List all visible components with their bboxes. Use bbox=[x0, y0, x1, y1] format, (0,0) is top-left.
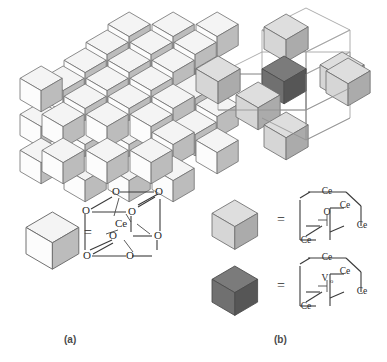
atom-V-center: V bbox=[322, 273, 329, 283]
panel-label-a: (a) bbox=[64, 334, 76, 345]
atom-O: O bbox=[82, 204, 90, 216]
panel-b-legend-item-1: Ce Ce Ce Ce O bbox=[212, 186, 367, 249]
atom-O: O bbox=[83, 249, 91, 261]
legend-cube-gray bbox=[212, 200, 258, 249]
panel-a-lattice bbox=[20, 12, 238, 202]
cube-top bbox=[264, 14, 308, 62]
equals-sign-panel-b-2: = bbox=[277, 278, 285, 294]
panel-a-legend: O O O O O O O O Ce bbox=[26, 185, 163, 270]
figure-canvas: O O O O O O O O Ce bbox=[0, 0, 387, 362]
panel-b-legend-item-2: Ce Ce Ce Ce V o bbox=[212, 252, 367, 315]
panel-label-b: (b) bbox=[274, 334, 287, 345]
atom-O: O bbox=[128, 205, 136, 217]
atom-O: O bbox=[112, 185, 120, 197]
atom-Ce: Ce bbox=[322, 252, 333, 262]
legend-cube-light-a bbox=[26, 212, 79, 269]
equals-sign-panel-a: = bbox=[84, 225, 92, 241]
atom-Ce: Ce bbox=[301, 301, 312, 311]
atom-Ce-center: Ce bbox=[115, 217, 127, 229]
atom-O: O bbox=[109, 229, 117, 241]
atom-Ce: Ce bbox=[357, 220, 368, 230]
atom-Ce: Ce bbox=[340, 266, 351, 276]
atom-O: O bbox=[154, 229, 162, 241]
atom-Ce: Ce bbox=[322, 186, 333, 196]
atom-Ce: Ce bbox=[340, 200, 351, 210]
oce8-cube-edges bbox=[300, 192, 361, 240]
equals-sign-panel-b-1: = bbox=[277, 212, 285, 228]
legend-cube-dark bbox=[212, 266, 258, 315]
atom-Ce: Ce bbox=[357, 286, 368, 296]
atom-O: O bbox=[126, 249, 134, 261]
atom-O: O bbox=[155, 185, 163, 197]
atom-V-subscript: o bbox=[330, 277, 333, 284]
atom-Ce: Ce bbox=[301, 235, 312, 245]
atom-O-center: O bbox=[324, 207, 331, 217]
figure-root: O O O O O O O O Ce bbox=[0, 0, 387, 362]
